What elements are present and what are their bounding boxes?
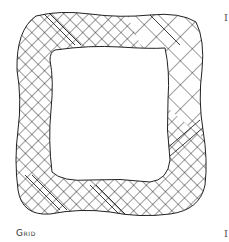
figure-caption: Grid bbox=[16, 228, 36, 238]
grid-frame-illustration bbox=[0, 0, 229, 242]
clipped-text-bottom: I bbox=[224, 228, 228, 239]
clipped-text-top: I bbox=[224, 12, 228, 23]
